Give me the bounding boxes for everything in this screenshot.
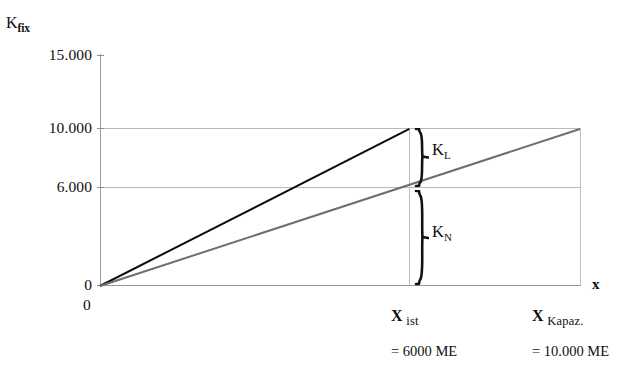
y-axis-line: [100, 54, 101, 286]
gridline-10000: [100, 128, 581, 129]
brace-kl-label-main: K: [432, 140, 444, 159]
y-tick-6000: [97, 187, 104, 188]
brace-kn-label-sub: N: [444, 231, 452, 243]
brace-kl: [413, 128, 429, 187]
x-category-kapaz-value: = 10.000 ME: [532, 343, 609, 360]
brace-kl-label: KL: [432, 140, 451, 161]
y-axis-title-sub: fix: [18, 22, 30, 34]
x-category-kapaz: X Kapaz.: [532, 307, 584, 329]
x-category-ist: X ist: [391, 307, 419, 329]
x-category-ist-value: = 6000 ME: [391, 343, 457, 360]
chart-figure: Kfix 15.000 10.000 6.000 0 0 x KL: [0, 0, 622, 379]
data-line-capacity: [100, 128, 581, 287]
gridline-6000: [100, 187, 581, 188]
y-tick-15000: [97, 55, 104, 56]
x-category-kapaz-symbol: X: [532, 307, 544, 324]
brace-kn: [413, 190, 429, 286]
gridline-x-kapaz: [580, 128, 581, 286]
x-category-ist-symbol: X: [391, 307, 403, 324]
brace-kl-label-sub: L: [444, 149, 451, 161]
y-tick-label-10000: 10.000: [20, 119, 92, 137]
y-tick-label-0: 0: [20, 276, 92, 294]
x-axis-title: x: [592, 276, 600, 293]
y-tick-label-15000: 15.000: [20, 46, 92, 64]
x-origin-label: 0: [83, 296, 91, 314]
y-axis-title-main: K: [6, 14, 18, 31]
y-tick-label-6000: 6.000: [20, 178, 92, 196]
y-tick-10000: [97, 128, 104, 129]
x-axis-line: [100, 285, 581, 286]
gridline-x-ist: [409, 128, 410, 286]
brace-kn-label-main: K: [432, 222, 444, 241]
y-axis-title: Kfix: [6, 14, 30, 34]
brace-kn-label: KN: [432, 222, 452, 243]
x-category-kapaz-sub: Kapaz.: [547, 314, 583, 328]
x-category-ist-sub: ist: [406, 314, 418, 328]
data-line-actual: [100, 128, 410, 287]
